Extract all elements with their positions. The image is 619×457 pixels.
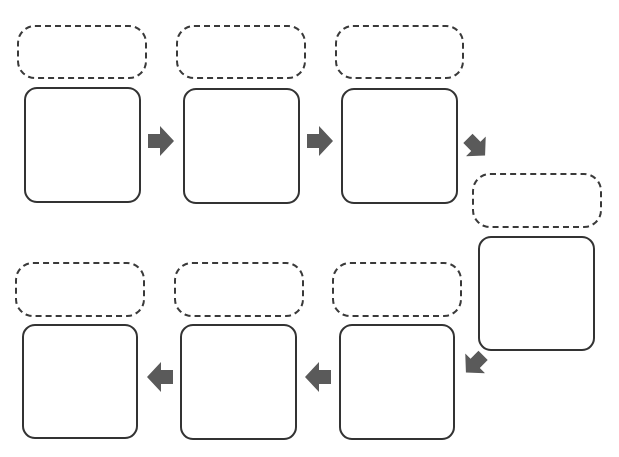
step-5-box[interactable] [339,324,455,440]
step-2-box[interactable] [183,88,300,204]
step-4-box[interactable] [478,236,595,351]
step-3-box[interactable] [341,88,458,204]
arrow-right-icon [148,126,174,156]
step-2-label-box[interactable] [176,25,306,79]
arrow-down-left-icon [461,350,488,378]
arrow-down-right-icon [463,133,490,161]
step-6-box[interactable] [180,324,297,440]
arrow-right-icon [307,126,333,156]
arrow-left-icon [305,362,331,392]
title-fragment [60,0,260,3]
step-1-label-box[interactable] [17,25,147,79]
step-1-box[interactable] [24,87,141,203]
step-7-box[interactable] [22,324,138,439]
step-6-label-box[interactable] [174,262,304,317]
step-3-label-box[interactable] [335,25,464,79]
step-7-label-box[interactable] [15,262,145,317]
step-4-label-box[interactable] [472,173,602,228]
arrow-left-icon [147,362,173,392]
step-5-label-box[interactable] [332,262,462,317]
